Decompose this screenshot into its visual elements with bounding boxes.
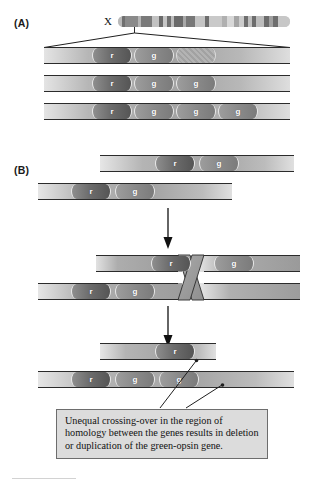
green-opsin-gene: g (176, 104, 216, 119)
gene-arrangement-bar: rgg (44, 75, 290, 92)
footer-rule (12, 478, 76, 479)
chromatid-bar: rg (38, 183, 232, 200)
gene-arrangement-bar: rggg (44, 103, 290, 120)
chromatid-edge (100, 155, 294, 156)
panel-b-label: (B) (14, 164, 29, 176)
red-opsin-gene: r (71, 184, 111, 199)
red-opsin-gene: r (151, 256, 191, 271)
chromatid-edge (100, 359, 216, 360)
panel-a-label: (A) (14, 17, 29, 29)
red-opsin-gene: r (71, 372, 111, 387)
red-opsin-gene: r (92, 76, 132, 91)
chromosome-band (256, 16, 264, 27)
caption-box: Unequal crossing-over in the region of h… (56, 409, 268, 459)
green-opsin-gene: g (218, 104, 258, 119)
chromatid-edge (100, 171, 294, 172)
red-opsin-gene: r (71, 284, 111, 299)
chromosome-band (186, 16, 195, 27)
green-opsin-gene: g (214, 256, 254, 271)
chromosome-band (125, 16, 138, 27)
chromosome-band (141, 16, 152, 27)
green-opsin-gene: g (159, 372, 199, 387)
chromatid-edge (44, 91, 290, 92)
chromosome-band (152, 16, 159, 27)
chromosome-band (195, 16, 205, 27)
crossover-bottom-genes: rg (38, 283, 242, 300)
chromatid-bar: rg (100, 155, 294, 172)
red-opsin-gene: r (155, 156, 195, 171)
absent-gene-slot (176, 48, 216, 63)
deletion-product-bar: r (100, 343, 216, 360)
red-opsin-gene: r (92, 48, 132, 63)
green-opsin-gene: g (199, 156, 239, 171)
green-opsin-gene: g (134, 76, 174, 91)
green-opsin-gene: g (176, 76, 216, 91)
crossover-top-genes: rg (96, 255, 300, 272)
chromosome-band (227, 16, 234, 27)
gene-arrangement-bar: rg (44, 47, 290, 64)
chromatid-edge (44, 119, 290, 120)
process-arrow-down (156, 208, 180, 250)
chromosome-band (174, 16, 183, 27)
x-chromosome-ideogram (118, 16, 290, 27)
x-chromosome-label: X (104, 15, 112, 27)
red-opsin-gene: r (155, 344, 195, 359)
chromatid-body (100, 155, 294, 172)
chromosome-band (278, 16, 290, 27)
chromatid-edge (44, 63, 290, 64)
red-opsin-gene: r (92, 104, 132, 119)
green-opsin-gene: g (115, 372, 155, 387)
green-opsin-gene: g (115, 184, 155, 199)
process-arrow-down (156, 306, 180, 348)
green-opsin-gene: g (134, 104, 174, 119)
chromatid-edge (38, 199, 232, 200)
duplication-product-bar: rgg (38, 371, 294, 388)
green-opsin-gene: g (115, 284, 155, 299)
green-opsin-gene: g (134, 48, 174, 63)
chromatid-edge (38, 387, 294, 388)
caption-text: Unequal crossing-over in the region of h… (65, 415, 260, 452)
chromosome-locus-tick (134, 27, 135, 33)
chromosome-band (209, 16, 222, 27)
figure-canvas: (A) X rg rgg rggg (B) rg rg (0, 0, 336, 485)
